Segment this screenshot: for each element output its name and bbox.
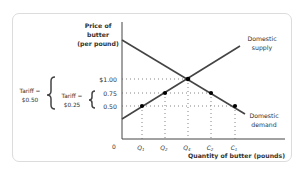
- point-c2: [209, 91, 213, 95]
- svg-text:Q1: Q1: [137, 144, 144, 153]
- point-q4: [186, 77, 191, 82]
- supply-label-1: Domestic: [247, 35, 277, 42]
- demand-line: [122, 40, 245, 114]
- x-tick-c1: C1: [231, 144, 238, 153]
- svg-text:C2: C2: [207, 144, 214, 153]
- demand-label-1: Domestic: [249, 112, 279, 119]
- x-tick-q2: Q2: [160, 144, 168, 153]
- tariff-050-label-1: Tariff =: [19, 88, 41, 94]
- y-axis-label-1: Price of: [85, 22, 112, 29]
- point-q1: [140, 104, 144, 108]
- point-q2: [163, 91, 167, 95]
- y-tick-0.50: 0.50: [103, 103, 117, 110]
- y-tick-1.00: $1.00: [99, 76, 117, 83]
- x-tick-q1: Q1: [137, 144, 144, 153]
- chart-svg: Price of butter (per pound) $1.00 0.75 0…: [0, 0, 305, 172]
- tariff-025-brace-icon: [89, 91, 95, 108]
- demand-label-2: demand: [251, 121, 276, 128]
- x-tick-q4: Q4: [183, 144, 191, 153]
- tariff-050-label-2: $0.50: [22, 97, 39, 103]
- supply-line: [122, 46, 240, 119]
- svg-text:Q4: Q4: [183, 144, 191, 153]
- x-tick-c2: C2: [207, 144, 214, 153]
- y-tick-0.75: 0.75: [103, 90, 117, 97]
- y-axis-label-2: butter: [87, 31, 110, 38]
- x-axis-label: Quantity of butter (pounds): [188, 152, 285, 160]
- tariff-050-brace-icon: [47, 77, 55, 109]
- tariff-025-label-2: $0.25: [64, 102, 81, 108]
- svg-text:Q2: Q2: [160, 144, 168, 153]
- point-c1: [233, 104, 237, 108]
- supply-label-2: supply: [252, 44, 273, 52]
- tariff-025-label-1: Tariff =: [61, 93, 83, 99]
- svg-text:C1: C1: [231, 144, 238, 153]
- origin-label: 0: [112, 143, 116, 150]
- y-axis-label-3: (per pound): [77, 40, 119, 48]
